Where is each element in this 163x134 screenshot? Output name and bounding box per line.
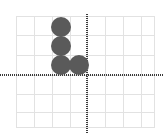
y-axis — [86, 14, 88, 134]
plot-canvas — [0, 0, 163, 134]
data-point[interactable] — [69, 55, 89, 75]
data-point[interactable] — [51, 55, 71, 75]
data-point[interactable] — [51, 17, 71, 37]
data-point[interactable] — [51, 36, 71, 56]
